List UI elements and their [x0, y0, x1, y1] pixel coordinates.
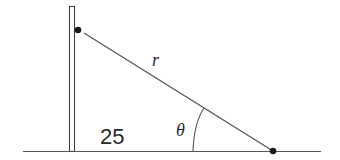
vertical-pole: [70, 7, 75, 152]
top-point-dot: [75, 27, 82, 34]
ground-point-dot: [270, 148, 277, 155]
base-length-label: 25: [100, 126, 124, 148]
angle-label: θ: [176, 121, 185, 139]
triangle-diagram: [0, 0, 340, 160]
angle-arc: [193, 108, 204, 151]
hypotenuse-label: r: [152, 51, 159, 69]
